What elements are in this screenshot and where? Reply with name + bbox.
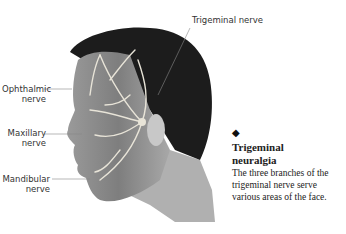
label-mandibular-nerve: Mandibular nerve [2,174,50,194]
caption-block: ◆ Trigeminal neuralgia The three branche… [232,128,342,203]
label-ophthalmic-line1: Ophthalmic [2,84,46,94]
caption-body: The three branches of the trigeminal ner… [232,167,342,203]
label-maxillary-nerve: Maxillary nerve [2,128,46,148]
label-ophthalmic-line2: nerve [2,94,46,104]
caption-title-line2: neuralgia [232,154,342,167]
label-trigeminal-nerve: Trigeminal nerve [192,15,263,25]
label-mandibular-line1: Mandibular [2,174,50,184]
label-ophthalmic-nerve: Ophthalmic nerve [2,84,46,104]
diamond-icon: ◆ [232,128,342,138]
caption-title: Trigeminal neuralgia [232,141,342,167]
label-maxillary-line1: Maxillary [2,128,46,138]
label-mandibular-line2: nerve [2,184,50,194]
label-maxillary-line2: nerve [2,138,46,148]
caption-title-line1: Trigeminal [232,141,342,154]
